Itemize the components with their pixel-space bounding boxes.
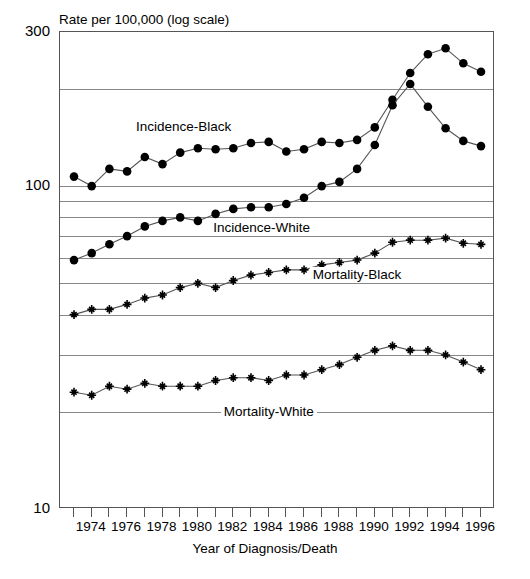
data-point bbox=[70, 256, 79, 265]
x-tick bbox=[250, 508, 251, 517]
x-tick bbox=[303, 508, 304, 517]
data-point bbox=[441, 234, 450, 243]
series-label-incidence-black: Incidence-Black bbox=[133, 119, 234, 134]
data-point bbox=[477, 67, 486, 76]
data-point bbox=[406, 80, 415, 89]
data-point bbox=[229, 144, 238, 153]
data-point bbox=[229, 205, 238, 214]
data-point bbox=[300, 371, 309, 380]
data-point bbox=[158, 382, 167, 391]
data-point bbox=[317, 138, 326, 147]
series-mortality-white bbox=[70, 341, 486, 399]
x-tick bbox=[144, 508, 145, 517]
data-point bbox=[123, 385, 132, 394]
data-point bbox=[282, 266, 291, 275]
data-point bbox=[300, 266, 309, 275]
data-point bbox=[140, 294, 149, 303]
data-point bbox=[388, 341, 397, 350]
data-point bbox=[335, 258, 344, 267]
data-point bbox=[370, 346, 379, 355]
x-tick bbox=[321, 508, 322, 517]
data-point bbox=[229, 276, 238, 285]
x-tick bbox=[232, 508, 233, 517]
x-axis-title: Year of Diagnosis/Death bbox=[0, 541, 530, 556]
data-point bbox=[264, 138, 273, 147]
data-point bbox=[123, 232, 132, 241]
x-tick bbox=[356, 508, 357, 517]
data-point bbox=[123, 300, 132, 309]
x-tick bbox=[73, 508, 74, 517]
x-tick bbox=[108, 508, 109, 517]
x-tick bbox=[338, 508, 339, 517]
x-tick bbox=[91, 508, 92, 517]
data-point bbox=[424, 236, 433, 245]
data-point bbox=[176, 213, 185, 222]
data-point bbox=[176, 382, 185, 391]
data-point bbox=[282, 371, 291, 380]
data-point bbox=[158, 291, 167, 300]
data-point bbox=[70, 310, 79, 319]
data-point bbox=[353, 136, 362, 145]
data-point bbox=[247, 139, 256, 148]
data-point bbox=[300, 145, 309, 154]
series-layer bbox=[60, 32, 495, 509]
data-point bbox=[247, 203, 256, 212]
y-tick-label: 10 bbox=[2, 500, 50, 515]
data-point bbox=[158, 160, 167, 169]
x-tick bbox=[427, 508, 428, 517]
data-point bbox=[388, 101, 397, 110]
data-point bbox=[229, 373, 238, 382]
data-point bbox=[459, 137, 468, 146]
data-point bbox=[477, 365, 486, 374]
data-point bbox=[353, 353, 362, 362]
data-point bbox=[300, 194, 309, 203]
data-point bbox=[194, 144, 203, 153]
x-tick bbox=[445, 508, 446, 517]
data-point bbox=[105, 240, 114, 249]
data-point bbox=[317, 182, 326, 191]
data-point bbox=[211, 210, 220, 219]
data-point bbox=[176, 283, 185, 292]
series-label-mortality-white: Mortality-White bbox=[221, 404, 317, 419]
data-point bbox=[140, 379, 149, 388]
data-point bbox=[87, 391, 96, 400]
data-point bbox=[158, 217, 167, 226]
data-point bbox=[123, 167, 132, 176]
x-tick bbox=[392, 508, 393, 517]
data-point bbox=[105, 165, 114, 174]
data-point bbox=[87, 249, 96, 258]
plot-area: Incidence-BlackIncidence-WhiteMortality-… bbox=[59, 31, 494, 508]
data-point bbox=[441, 351, 450, 360]
x-tick bbox=[462, 508, 463, 517]
data-point bbox=[459, 59, 468, 68]
data-point bbox=[87, 182, 96, 191]
data-point bbox=[424, 50, 433, 59]
data-point bbox=[282, 200, 291, 209]
data-point bbox=[141, 153, 150, 162]
data-point bbox=[424, 346, 433, 355]
x-tick bbox=[285, 508, 286, 517]
data-point bbox=[406, 346, 415, 355]
data-point bbox=[264, 268, 273, 277]
data-point bbox=[282, 147, 291, 156]
data-point bbox=[247, 373, 256, 382]
data-point bbox=[388, 238, 397, 247]
data-point bbox=[335, 178, 344, 187]
y-axis-title: Rate per 100,000 (log scale) bbox=[59, 12, 229, 27]
data-point bbox=[105, 305, 114, 314]
y-tick-label: 300 bbox=[2, 23, 50, 38]
series-incidence-black bbox=[70, 44, 486, 190]
data-point bbox=[194, 217, 203, 226]
data-point bbox=[176, 148, 185, 157]
data-point bbox=[193, 279, 202, 288]
x-tick bbox=[409, 508, 410, 517]
data-point bbox=[406, 236, 415, 245]
data-point bbox=[105, 382, 114, 391]
x-tick bbox=[179, 508, 180, 517]
data-point bbox=[264, 203, 273, 212]
chart-root: Rate per 100,000 (log scale) Incidence-B… bbox=[0, 0, 530, 579]
x-tick bbox=[480, 508, 481, 517]
data-point bbox=[353, 256, 362, 265]
data-point bbox=[459, 358, 468, 367]
x-tick bbox=[268, 508, 269, 517]
